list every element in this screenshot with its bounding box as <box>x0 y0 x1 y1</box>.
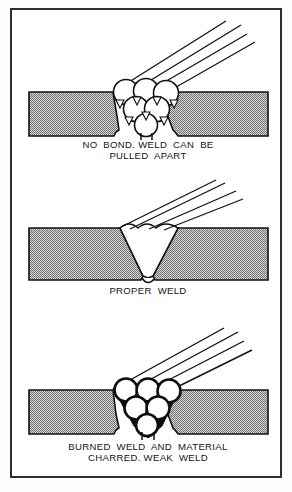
root-bead <box>142 278 155 283</box>
caption-no-bond: NO BOND. WELD CAN BE PULLED APART <box>12 140 284 161</box>
caption-line-1: PROPER WELD <box>12 286 284 297</box>
left-plate <box>29 92 119 136</box>
panel-proper-weld-illustration <box>12 172 284 292</box>
caption-line-2: CHARRED. WEAK WELD <box>12 453 284 464</box>
caption-proper-weld: PROPER WELD <box>12 286 284 297</box>
caption-line-1: NO BOND. WELD CAN BE <box>12 140 284 151</box>
panel-burned-weld-illustration <box>12 322 284 444</box>
caption-line-2: PULLED APART <box>12 151 284 162</box>
left-plate <box>29 390 119 434</box>
weld-bead-cluster <box>115 379 181 437</box>
panel-proper-weld: PROPER WELD <box>12 172 284 322</box>
panel-no-bond: NO BOND. WELD CAN BE PULLED APART <box>12 12 284 172</box>
weld-bead-cluster <box>114 79 179 137</box>
caption-burned-weld: BURNED WELD AND MATERIAL CHARRED. WEAK W… <box>12 442 284 463</box>
caption-line-1: BURNED WELD AND MATERIAL <box>12 442 284 453</box>
panel-no-bond-illustration <box>12 12 284 142</box>
right-plate <box>164 92 268 136</box>
figure-frame: NO BOND. WELD CAN BE PULLED APART <box>10 8 282 478</box>
weld-comparison-figure: NO BOND. WELD CAN BE PULLED APART <box>0 0 292 492</box>
panel-burned-weld: BURNED WELD AND MATERIAL CHARRED. WEAK W… <box>12 322 284 474</box>
electrode-lines <box>121 180 243 230</box>
